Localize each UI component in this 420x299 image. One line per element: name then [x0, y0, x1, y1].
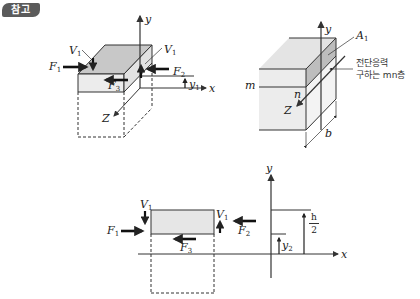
right-label-a1: A1: [356, 30, 368, 43]
bottom-label-f2: F2: [238, 225, 250, 238]
h-denominator: 2: [309, 225, 319, 235]
bottom-label-h-over-2: h 2: [309, 212, 319, 235]
left-label-f2: F2: [173, 66, 185, 79]
bottom-label-f1: F1: [107, 225, 119, 238]
left-label-v1-left: V1: [69, 45, 81, 58]
right-label-m: m: [245, 80, 255, 91]
left-label-v1-right: V1: [164, 44, 176, 57]
annotation-mn-layer: 구하는 mn층: [356, 70, 405, 81]
left-label-x-axis: x: [209, 83, 215, 94]
bottom-label-v1-right: V1: [216, 209, 228, 222]
left-label-y1: y1: [189, 79, 200, 92]
fraction-bar: [309, 223, 319, 224]
bottom-label-y-axis: y: [266, 163, 272, 174]
right-label-b: b: [325, 128, 332, 139]
right-label-z-axis: Z: [284, 105, 292, 116]
h-numerator: h: [309, 212, 319, 222]
right-label-n: n: [294, 89, 301, 100]
right-label-y-axis: y: [325, 24, 331, 35]
left-label-f1: F1: [49, 61, 61, 74]
bottom-label-y2: y2: [282, 240, 293, 253]
left-label-f3: F3: [108, 80, 120, 93]
left-label-y-axis: y: [145, 14, 151, 25]
bottom-label-f3: F3: [180, 242, 192, 255]
left-label-z-axis: Z: [102, 113, 110, 124]
diagram-canvas: 참고: [0, 0, 420, 299]
bottom-label-x-axis: x: [341, 249, 347, 260]
annotation-shear-stress: 전단응력: [356, 58, 388, 69]
bottom-label-v1-left: V1: [140, 199, 152, 212]
diagram-svg: [0, 0, 420, 299]
